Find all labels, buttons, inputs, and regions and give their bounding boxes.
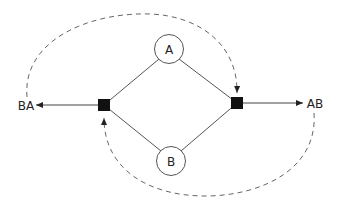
edge-left-junction-to-b (104, 105, 161, 151)
edge-b-to-right-junction (181, 103, 237, 151)
output-ab-label: AB (307, 97, 323, 111)
diagram-canvas: A B BA AB (0, 0, 339, 208)
edge-left-junction-to-a (104, 59, 159, 105)
feedback-arc-ba-to-right-junction (27, 14, 237, 97)
feedback-arc-ab-to-left-junction (104, 113, 314, 196)
output-ba-label: BA (18, 99, 35, 113)
node-a-label: A (165, 43, 174, 57)
right-junction (231, 97, 243, 109)
node-b-label: B (167, 155, 175, 169)
edge-a-to-right-junction (179, 59, 237, 103)
left-junction (98, 99, 110, 111)
